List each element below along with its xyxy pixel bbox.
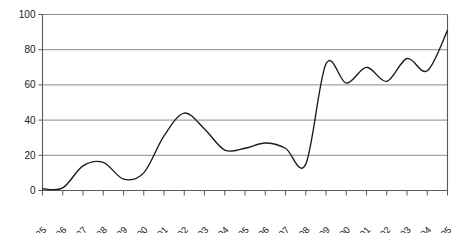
x-axis-ticks [43, 191, 448, 196]
y-axis-tick-label: 20 [24, 150, 36, 161]
chart-background [0, 0, 465, 233]
y-axis-tick-label: 100 [19, 9, 36, 20]
line-chart: 020406080100 198519861987198819891990199… [0, 0, 465, 233]
y-axis-tick-label: 80 [24, 44, 36, 55]
y-axis-tick-label: 40 [24, 115, 36, 126]
chart-canvas: 020406080100 198519861987198819891990199… [0, 0, 465, 233]
y-axis-tick-label: 0 [30, 185, 36, 196]
y-axis-tick-label: 60 [24, 79, 36, 90]
